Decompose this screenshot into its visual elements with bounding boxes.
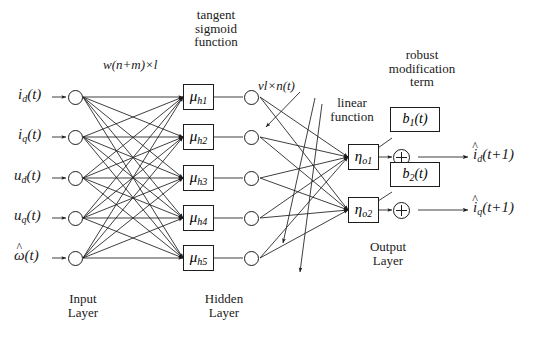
tangent-sigmoid-caption: tangent sigmoid function xyxy=(168,8,264,49)
hidden-node-1 xyxy=(244,90,259,105)
input-label-id: id(t) xyxy=(18,87,41,105)
input-label-iq: iq(t) xyxy=(18,127,41,145)
hidden-node-2 xyxy=(244,130,259,145)
output-layer-caption-line-2: Layer xyxy=(350,254,426,268)
output-layer-caption: Output Layer xyxy=(350,240,426,267)
hidden-unit-box-5: μh5 xyxy=(183,245,214,271)
hidden-node-5 xyxy=(244,251,259,266)
input-label-ud: ud(t) xyxy=(14,168,41,186)
input-layer-caption: Input Layer xyxy=(48,292,118,319)
summation-node-2 xyxy=(393,202,410,219)
input-label-uq: uq(t) xyxy=(14,208,41,226)
input-label-omega-hat: ^ω(t) xyxy=(14,248,39,264)
robust-term-line-2: modification xyxy=(366,62,478,76)
hidden-unit-box-4: μh4 xyxy=(183,205,214,231)
hidden-node-4 xyxy=(244,211,259,226)
output-label-id-next: ^id(t+1) xyxy=(473,147,514,165)
output-layer-caption-line-1: Output xyxy=(350,240,426,254)
weight-label-input-hidden: w(n+m)×l xyxy=(103,58,157,72)
output-unit-box-2: ηo2 xyxy=(348,197,379,223)
input-node-2 xyxy=(68,130,83,145)
robust-term-box-2: b2(t) xyxy=(390,162,440,187)
linear-function-caption: linear function xyxy=(322,96,382,123)
hidden-unit-box-2: μh2 xyxy=(183,124,214,150)
input-node-5 xyxy=(68,251,83,266)
robust-term-line-1: robust xyxy=(366,48,478,62)
hidden-unit-box-1: μh1 xyxy=(183,84,214,110)
output-label-iq-next: ^iq(t+1) xyxy=(473,200,514,218)
linear-function-line-2: function xyxy=(322,110,382,124)
hidden-layer-caption: Hidden Layer xyxy=(186,292,262,319)
input-node-1 xyxy=(68,90,83,105)
tangent-sigmoid-line-3: function xyxy=(168,35,264,49)
tangent-sigmoid-line-2: sigmoid xyxy=(168,22,264,36)
hidden-layer-caption-line-1: Hidden xyxy=(186,292,262,306)
network-diagram-canvas: id(t) iq(t) ud(t) uq(t) ^ω(t) w(n+m)×l t… xyxy=(0,0,553,359)
robust-term-caption: robust modification term xyxy=(366,48,478,89)
output-unit-box-1: ηo1 xyxy=(348,144,379,170)
hidden-layer-caption-line-2: Layer xyxy=(186,306,262,320)
hidden-unit-box-3: μh3 xyxy=(183,165,214,191)
tangent-sigmoid-line-1: tangent xyxy=(168,8,264,22)
robust-term-box-1: b1(t) xyxy=(390,107,440,132)
weight-label-hidden-output: vl×n(t) xyxy=(258,79,295,93)
hidden-node-3 xyxy=(244,171,259,186)
input-node-3 xyxy=(68,171,83,186)
input-node-4 xyxy=(68,211,83,226)
linear-function-line-1: linear xyxy=(322,96,382,110)
input-layer-caption-line-1: Input xyxy=(48,292,118,306)
robust-term-line-3: term xyxy=(366,75,478,89)
input-layer-caption-line-2: Layer xyxy=(48,306,118,320)
